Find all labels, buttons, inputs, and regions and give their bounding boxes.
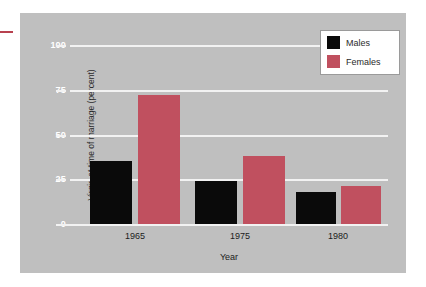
bar-group-1975 [195, 45, 285, 224]
bar-males-1975[interactable] [195, 181, 237, 224]
y-tick-dash-50 [56, 135, 66, 137]
x-tick-label-1975: 1975 [230, 231, 250, 241]
x-axis-title: Year [70, 252, 388, 262]
bar-chart-figure: 100 75 50 25 0 Virgin at time of marriag… [0, 0, 426, 287]
bar-group-1965 [90, 45, 180, 224]
x-tick-label-1965: 1965 [125, 231, 145, 241]
y-tick-dash-100 [56, 45, 66, 47]
legend-label-females: Females [346, 57, 381, 67]
bar-females-1975[interactable] [243, 156, 285, 224]
legend-item-females[interactable]: Females [327, 55, 393, 68]
legend-swatch-males-icon [327, 36, 340, 49]
y-tick-dash-25 [56, 179, 66, 181]
legend-swatch-females-icon [327, 55, 340, 68]
bar-males-1980[interactable] [296, 192, 336, 224]
chart-legend: Males Females [320, 30, 400, 75]
chart-plot-panel: 100 75 50 25 0 Virgin at time of marriag… [20, 13, 406, 273]
x-tick-label-1980: 1980 [328, 231, 348, 241]
legend-label-males: Males [346, 38, 370, 48]
bar-females-1965[interactable] [138, 95, 180, 224]
y-tick-dash-75 [56, 90, 66, 92]
bar-males-1965[interactable] [90, 161, 132, 224]
legend-item-males[interactable]: Males [327, 36, 393, 49]
y-tick-dash-0 [56, 224, 66, 226]
bar-females-1980[interactable] [341, 186, 381, 224]
x-axis-baseline [64, 224, 388, 226]
